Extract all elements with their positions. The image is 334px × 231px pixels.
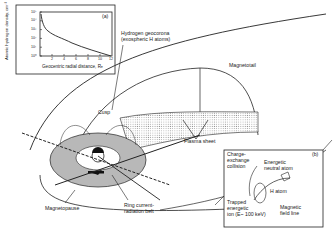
- ytick: 10²: [31, 36, 36, 40]
- xtick: 6: [75, 57, 77, 61]
- ytick: 10⁴: [31, 18, 37, 22]
- label-ion-energy: ion (E~ 100 keV): [227, 212, 266, 218]
- label-collision: collision: [227, 164, 245, 170]
- inset-a-tag: (a): [102, 14, 108, 20]
- ytick: 10⁵: [31, 10, 37, 14]
- label-geocorona-sub: (exospheric H atoms): [121, 37, 170, 43]
- xtick: 8: [87, 57, 89, 61]
- inset-a-xlabel: Geocentric radial distance, Rₑ: [42, 64, 103, 69]
- ytick: 10⁰: [31, 54, 37, 58]
- label-plasma-sheet: Plasma sheet: [184, 139, 215, 145]
- inset-b-tag: (b): [312, 152, 318, 158]
- label-cusp: Cusp: [98, 110, 110, 116]
- label-magnetotail: Magnetotail: [229, 63, 256, 69]
- ytick: 10³: [31, 27, 36, 31]
- label-field-line: field line: [280, 211, 299, 217]
- label-magnetopause: Magnetopause: [45, 206, 79, 212]
- xtick: 4: [63, 57, 65, 61]
- label-h-atom: H atom: [270, 189, 287, 195]
- xtick: 2: [51, 57, 53, 61]
- label-radiation-belt: radiation belt: [124, 209, 154, 215]
- ytick: 10¹: [31, 45, 36, 49]
- label-neutral-atom: neutral atom: [264, 166, 293, 172]
- xtick: 12: [109, 57, 113, 61]
- xtick: 10: [98, 57, 102, 61]
- inset-a-ylabel: Atomic hydrogen density, cm⁻³: [5, 2, 10, 60]
